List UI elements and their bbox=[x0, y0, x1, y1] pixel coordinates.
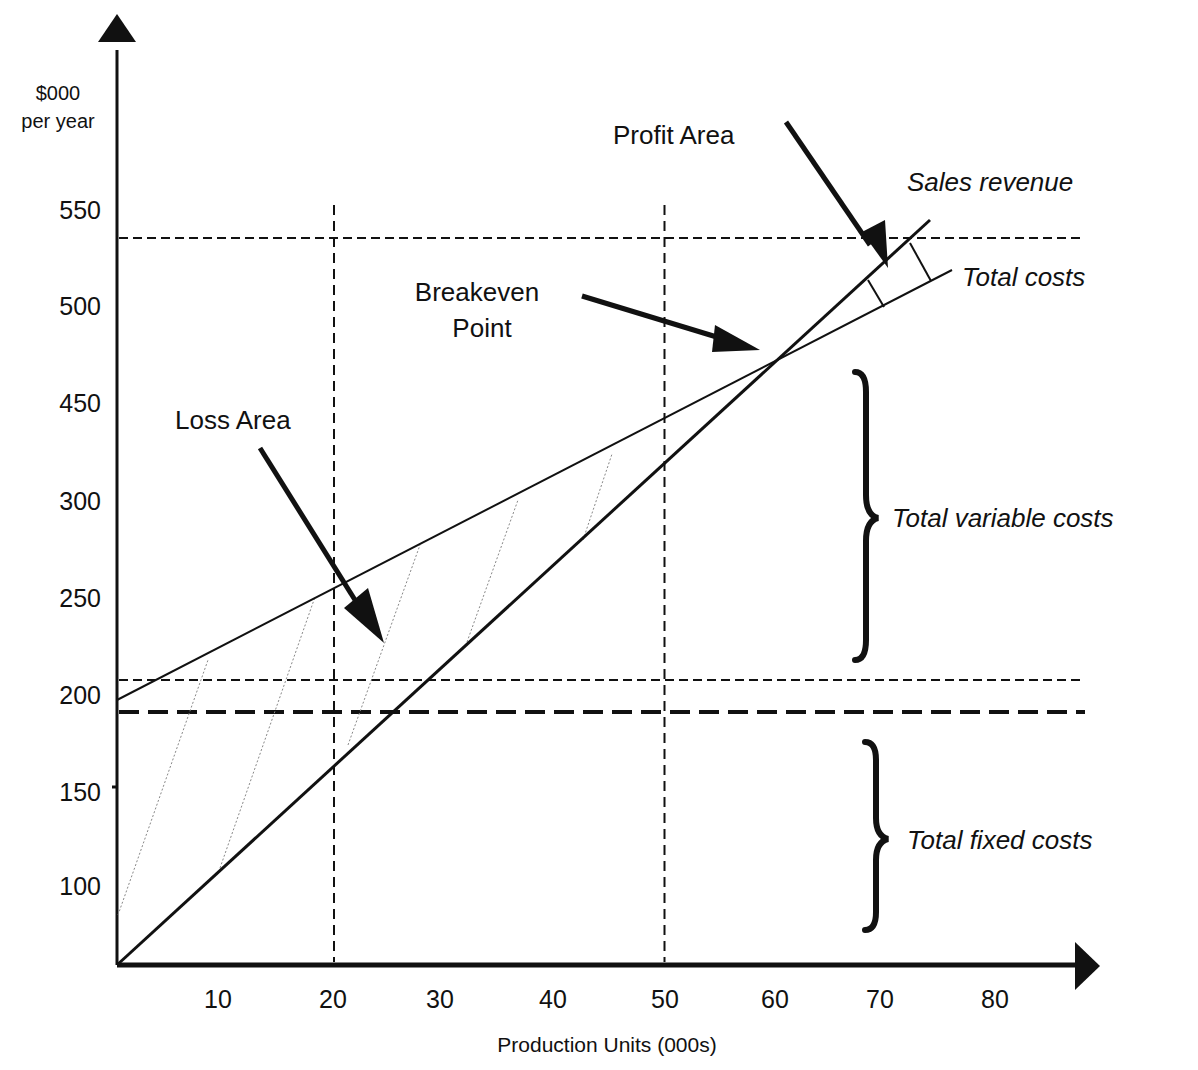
y-axis-title-line1: $000 bbox=[36, 82, 81, 104]
y-tick-label: 200 bbox=[59, 681, 101, 709]
x-axis-title: Production Units (000s) bbox=[497, 1033, 716, 1056]
profit-area-arrowhead-icon bbox=[862, 220, 888, 268]
y-tick-label: 500 bbox=[59, 292, 101, 320]
sales-revenue-label: Sales revenue bbox=[907, 167, 1073, 197]
breakeven-arrow-icon bbox=[582, 296, 720, 338]
y-tick-labels: 550 500 450 300 250 200 150 100 bbox=[59, 196, 101, 900]
y-tick-label: 450 bbox=[59, 389, 101, 417]
x-tick-label: 30 bbox=[426, 985, 454, 1013]
annotation-arrows bbox=[260, 122, 888, 643]
hatch-line bbox=[118, 660, 208, 915]
y-tick-label: 550 bbox=[59, 196, 101, 224]
fixed-costs-brace-icon bbox=[865, 742, 888, 930]
x-tick-label: 10 bbox=[204, 985, 232, 1013]
total-variable-costs-label: Total variable costs bbox=[892, 503, 1114, 533]
profit-mark bbox=[868, 280, 884, 307]
x-axis-arrow-icon bbox=[1075, 942, 1100, 990]
breakeven-arrowhead-icon bbox=[712, 325, 760, 352]
series-lines bbox=[117, 220, 952, 965]
profit-area-arrow-icon bbox=[786, 122, 870, 245]
series-line-sales-revenue bbox=[117, 220, 930, 965]
x-tick-label: 40 bbox=[539, 985, 567, 1013]
x-tick-label: 80 bbox=[981, 985, 1009, 1013]
profit-area-label: Profit Area bbox=[613, 120, 735, 150]
breakeven-chart: $000 per year 550 500 450 300 250 200 15… bbox=[0, 0, 1198, 1070]
y-axis-title-line2: per year bbox=[21, 110, 95, 132]
breakeven-label-line2: Point bbox=[452, 313, 512, 343]
profit-mark bbox=[910, 243, 931, 281]
loss-area-arrow-icon bbox=[260, 448, 355, 600]
x-tick-label: 60 bbox=[761, 985, 789, 1013]
total-fixed-costs-label: Total fixed costs bbox=[907, 825, 1092, 855]
total-costs-label: Total costs bbox=[962, 262, 1085, 292]
x-tick-label: 70 bbox=[866, 985, 894, 1013]
y-axis-arrow-icon bbox=[98, 14, 136, 42]
hatch-line bbox=[583, 454, 612, 540]
breakeven-label-line1: Breakeven bbox=[415, 277, 539, 307]
x-tick-label: 20 bbox=[319, 985, 347, 1013]
loss-area-hatching bbox=[118, 454, 612, 915]
y-tick-label: 300 bbox=[59, 487, 101, 515]
variable-costs-brace-icon bbox=[855, 372, 878, 660]
series-line-total-costs bbox=[117, 270, 952, 700]
x-tick-labels: 10 20 30 40 50 60 70 80 bbox=[204, 985, 1009, 1013]
y-tick-label: 100 bbox=[59, 872, 101, 900]
x-tick-label: 50 bbox=[651, 985, 679, 1013]
loss-area-label: Loss Area bbox=[175, 405, 291, 435]
y-tick-label: 250 bbox=[59, 584, 101, 612]
y-tick-label: 150 bbox=[59, 778, 101, 806]
